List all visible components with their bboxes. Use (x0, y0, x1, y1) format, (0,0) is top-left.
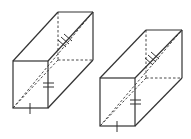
triple-tick-mark (145, 52, 159, 65)
prism-left (13, 12, 93, 114)
front-face (13, 61, 48, 108)
prism-right (100, 30, 182, 132)
prism-diagram (0, 0, 191, 139)
front-face (100, 78, 135, 126)
